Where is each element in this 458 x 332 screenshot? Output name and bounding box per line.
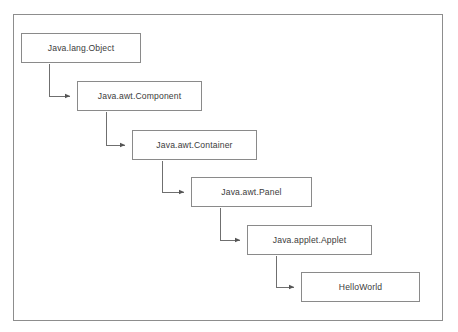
node-label: Java.awt.Component (98, 91, 181, 101)
edge-component-to-container (107, 112, 126, 146)
edge-object-to-component (50, 64, 71, 97)
edge-applet-to-helloworld (277, 256, 295, 288)
node-label: Java.applet.Applet (273, 235, 346, 245)
node-java-lang-object[interactable]: Java.lang.Object (21, 33, 141, 63)
edge-panel-to-applet (221, 208, 241, 241)
edge-container-to-panel (163, 161, 185, 193)
diagram-canvas: Java.lang.Object Java.awt.Component Java… (0, 0, 458, 332)
node-java-awt-panel[interactable]: Java.awt.Panel (191, 177, 312, 207)
node-java-awt-component[interactable]: Java.awt.Component (77, 81, 202, 111)
node-label: HelloWorld (339, 282, 382, 292)
node-label: Java.awt.Panel (221, 187, 281, 197)
node-label: Java.awt.Container (156, 140, 232, 150)
node-label: Java.lang.Object (48, 43, 114, 53)
node-java-awt-container[interactable]: Java.awt.Container (132, 130, 257, 160)
node-helloworld[interactable]: HelloWorld (301, 272, 420, 302)
node-java-applet-applet[interactable]: Java.applet.Applet (247, 225, 372, 255)
